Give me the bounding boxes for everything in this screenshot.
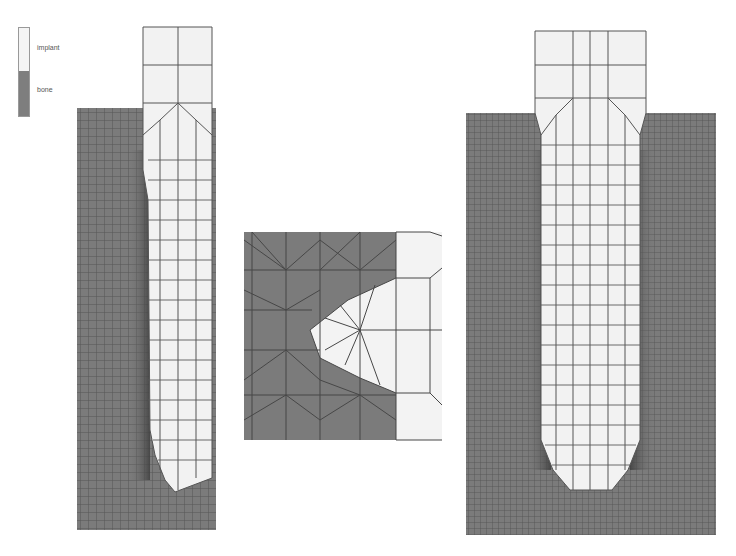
left-interface-zone [128,150,150,480]
fe-mesh-figure [0,0,736,556]
right-model [466,31,716,535]
left-model [77,27,216,530]
thread-detail [244,232,442,440]
detail-implant-region [396,232,442,440]
